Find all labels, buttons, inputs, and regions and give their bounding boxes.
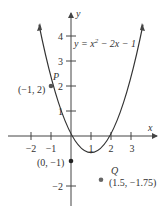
curve-arrow-left	[37, 23, 42, 31]
point-y-intercept-coords: (0, −1)	[37, 157, 64, 169]
equation-label: y = x2 − 2x − 1	[73, 37, 136, 49]
tick-label-y-neg2: −2	[52, 181, 63, 192]
point-p-name: P	[52, 71, 59, 82]
point-p-coords: (−1, 2)	[18, 84, 45, 96]
point-q	[99, 177, 104, 182]
point-y-intercept	[69, 159, 74, 164]
tick-label-x-3: 3	[130, 143, 135, 154]
x-axis-label: x	[147, 122, 153, 133]
y-axis-label: y	[75, 8, 81, 19]
parabola-chart: −2 −1 1 2 3 4 3 2 1 −2 x y y = x2 − 2x −…	[0, 0, 167, 211]
tick-label-x-2: 2	[109, 143, 114, 154]
point-q-coords: (1.5, −1.75)	[109, 177, 156, 189]
tick-label-x-neg2: −2	[26, 143, 37, 154]
tick-label-y-2: 2	[58, 81, 63, 92]
tick-label-x-neg1: −1	[46, 143, 57, 154]
tick-label-y-4: 4	[58, 31, 63, 42]
tick-label-y-3: 3	[58, 56, 63, 67]
point-q-name: Q	[111, 165, 119, 176]
point-p	[49, 84, 54, 89]
curve-arrow-right	[140, 23, 145, 31]
